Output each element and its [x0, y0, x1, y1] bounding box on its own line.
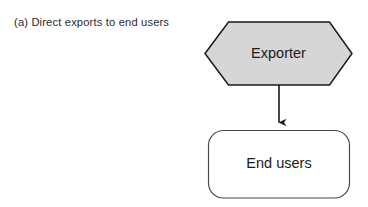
- diagram-graphics: [0, 0, 368, 207]
- end-users-node-label: End users: [208, 155, 350, 171]
- figure-canvas: (a) Direct exports to end users Exporter…: [0, 0, 368, 207]
- exporter-node-label: Exporter: [205, 45, 352, 61]
